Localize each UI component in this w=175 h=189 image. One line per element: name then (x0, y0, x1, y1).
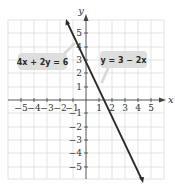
x-tick-labels: −5 −4 −3 −2 −1 1 2 3 4 5 (14, 103, 154, 113)
x-tick-label: −3 (40, 103, 54, 113)
x-tick-label: 5 (148, 103, 154, 113)
y-tick-label: 1 (76, 82, 82, 92)
x-tick-label: −4 (27, 103, 41, 113)
x-tick-label: 1 (96, 103, 102, 113)
y-tick-label: 2 (76, 68, 82, 78)
x-tick-label: 4 (135, 103, 141, 113)
x-axis-label: x (168, 94, 174, 105)
coordinate-plane-chart: −5 −4 −3 −2 −1 1 2 3 4 5 5 4 3 2 1 −1 −2… (0, 0, 175, 189)
x-axis-arrow-icon (159, 98, 166, 103)
y-tick-label: 3 (76, 55, 82, 65)
y-tick-label: −5 (69, 162, 83, 172)
x-tick-label: −5 (14, 103, 28, 113)
y-axis-label: y (77, 5, 84, 16)
callout-right-label: y = 3 − 2x (100, 56, 147, 65)
y-tick-label: −1 (69, 108, 82, 118)
line-bottom-arrow-icon (139, 177, 144, 183)
x-tick-label: 3 (122, 103, 128, 113)
chart-svg: −5 −4 −3 −2 −1 1 2 3 4 5 5 4 3 2 1 −1 −2… (0, 0, 175, 189)
y-tick-label: −3 (69, 135, 83, 145)
y-tick-label: −2 (69, 122, 82, 132)
y-tick-label: 5 (76, 28, 82, 38)
axes (8, 18, 162, 179)
y-tick-label: −4 (69, 148, 83, 158)
callout-left-label: 4x + 2y = 6 (17, 58, 69, 67)
y-axis-arrow-icon (84, 14, 89, 21)
